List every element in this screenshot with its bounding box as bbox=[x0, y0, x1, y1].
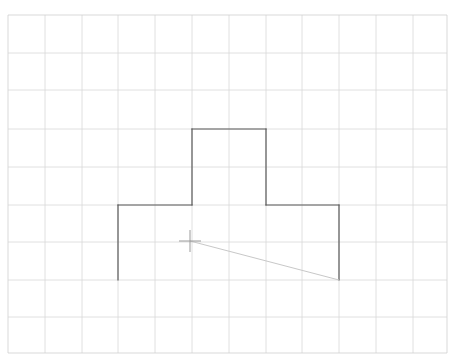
canvas-background bbox=[0, 0, 454, 361]
sketch-drawing-surface[interactable] bbox=[0, 0, 454, 361]
sketch-canvas[interactable] bbox=[0, 0, 454, 361]
